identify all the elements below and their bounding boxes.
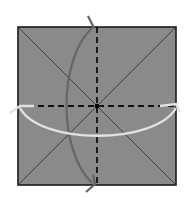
origami-diagram bbox=[0, 0, 189, 198]
center-point bbox=[95, 104, 99, 108]
